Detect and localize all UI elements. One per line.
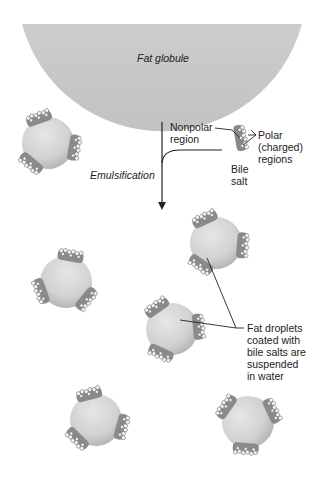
polar-label-line2: (charged) (258, 141, 303, 153)
polar-label-line3: regions (258, 153, 292, 165)
droplets-label-line1: Fat droplets (247, 322, 302, 334)
droplets-label-line3: bile salts are (247, 346, 306, 358)
bile-salt-label-line1: Bile (231, 163, 249, 175)
nonpolar-label-line1: Nonpolar (170, 121, 213, 133)
fat-globule-label: Fat globule (137, 52, 189, 64)
emulsification-diagram (0, 0, 317, 482)
polar-label-line1: Polar (258, 129, 283, 141)
droplets-label-line4: suspended (247, 358, 298, 370)
bile-salt-label-line2: salt (231, 175, 247, 187)
droplets-label-line5: in water (247, 370, 284, 382)
emulsification-label: Emulsification (90, 169, 155, 181)
nonpolar-label-line2: region (170, 133, 199, 145)
droplets-label-line2: coated with (247, 334, 300, 346)
